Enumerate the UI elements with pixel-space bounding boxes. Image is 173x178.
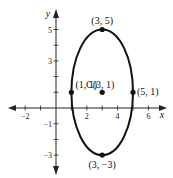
center-label: C(3, 1) [86, 79, 114, 91]
x-tick-label: −2 [21, 112, 30, 121]
center-point [100, 90, 105, 95]
y-tick-label: −3 [43, 151, 52, 160]
top-vertex-point [100, 27, 105, 32]
x-tick-label: 6 [146, 112, 150, 121]
x-axis-left-arrow [8, 105, 16, 111]
top-vertex-label: (3, 5) [91, 15, 113, 27]
points-layer: (3, 5)(3, −3)(1, 1)(5, 1)C(3, 1) [69, 15, 159, 172]
y-axis-up-arrow [53, 9, 59, 18]
y-axis-down-arrow [53, 166, 59, 175]
right-covertex-point [130, 90, 135, 95]
y-tick-label: 3 [48, 57, 52, 66]
right-covertex-label: (5, 1) [137, 86, 159, 98]
bottom-vertex-label: (3, −3) [89, 159, 116, 171]
y-tick-label: −1 [43, 120, 52, 129]
y-axis-label: y [45, 8, 51, 19]
x-axis-label: x [159, 109, 165, 120]
x-tick-label: 2 [85, 112, 89, 121]
ellipse-diagram: −224653−1−3xy (3, 5)(3, −3)(1, 1)(5, 1)C… [0, 0, 173, 178]
y-tick-label: 5 [48, 26, 52, 35]
left-covertex-point [69, 90, 74, 95]
x-tick-label: 4 [116, 112, 120, 121]
bottom-vertex-point [100, 153, 105, 158]
